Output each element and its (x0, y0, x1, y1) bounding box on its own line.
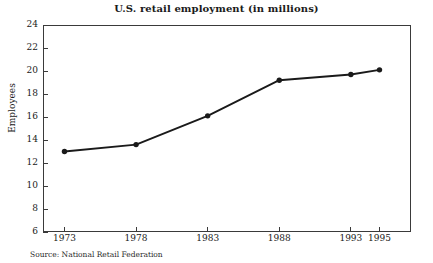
series-retail-employment: 1973: 131978: 13.61983: 16.11988: 19.219… (43, 25, 411, 232)
chart-title: U.S. retail employment (in millions) (0, 3, 433, 14)
data-point-marker: 1973: 13 (62, 149, 67, 154)
data-point-marker: 1995: 20.1 (377, 67, 382, 72)
y-tick-label-wrap: 16 (6, 112, 38, 122)
x-tick-label: 1995 (359, 234, 399, 243)
x-tick-label: 1983 (188, 234, 228, 243)
y-tick-label: 22 (10, 43, 38, 52)
series-line (64, 70, 379, 152)
y-tick-label-wrap: 8 (6, 204, 38, 214)
plot-area: 1973: 131978: 13.61983: 16.11988: 19.219… (43, 25, 411, 232)
y-tick-label-wrap: 10 (6, 181, 38, 191)
x-tick-label: 1973 (44, 234, 84, 243)
y-tick-label: 24 (10, 20, 38, 29)
data-point-marker: 1993: 19.7 (348, 72, 353, 77)
y-tick-label-wrap: 6 (6, 227, 38, 237)
data-point-marker: 1978: 13.6 (133, 142, 138, 147)
y-tick-label: 20 (10, 66, 38, 75)
y-tick-label: 18 (10, 89, 38, 98)
y-tick-label: 6 (10, 227, 38, 236)
y-tick-label-wrap: 12 (6, 158, 38, 168)
y-tick-label-wrap: 20 (6, 66, 38, 76)
x-tick-label: 1988 (259, 234, 299, 243)
y-tick-label-wrap: 24 (6, 20, 38, 30)
data-point-marker: 1983: 16.1 (205, 113, 210, 118)
y-tick-label: 10 (10, 181, 38, 190)
y-tick-label-wrap: 18 (6, 89, 38, 99)
y-tick-label: 16 (10, 112, 38, 121)
y-axis-title: Employees (7, 73, 17, 143)
source-note: Source: National Retail Federation (30, 250, 163, 259)
x-tick-label: 1978 (116, 234, 156, 243)
y-tick-label: 8 (10, 204, 38, 213)
y-tick-label-wrap: 14 (6, 135, 38, 145)
y-tick-label: 14 (10, 135, 38, 144)
data-point-marker: 1988: 19.2 (277, 78, 282, 83)
y-tick-label-wrap: 22 (6, 43, 38, 53)
y-tick-label: 12 (10, 158, 38, 167)
